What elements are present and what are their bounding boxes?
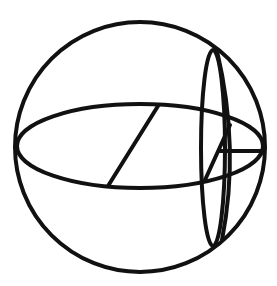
equatorial-radius-line bbox=[108, 106, 158, 186]
sphere-diagram bbox=[0, 0, 277, 286]
outer-sphere-circle bbox=[15, 22, 265, 272]
